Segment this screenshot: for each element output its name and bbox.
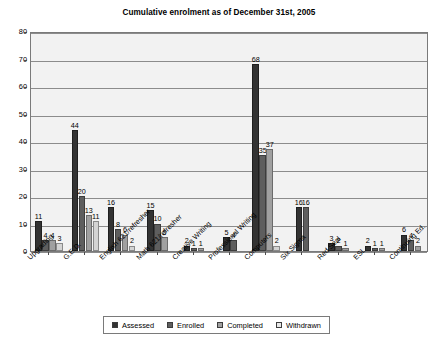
- bar-value-label: 1: [375, 240, 389, 247]
- legend-item: Completed: [217, 321, 263, 330]
- x-axis: UpgradingG.E.D.English 621/refresherMath…: [0, 252, 438, 312]
- bar: [372, 248, 378, 251]
- y-axis-tick: [24, 142, 27, 143]
- legend-item: Assessed: [112, 321, 154, 330]
- y-axis-tick: [24, 87, 27, 88]
- y-axis: 01020304050607080: [0, 32, 27, 252]
- x-axis-tick: [84, 252, 85, 255]
- legend-swatch-icon: [217, 322, 223, 328]
- bar: [342, 248, 348, 251]
- bar: [273, 246, 279, 252]
- x-axis-tick: [374, 252, 375, 255]
- bar: [93, 221, 99, 251]
- x-axis-tick: [301, 252, 302, 255]
- y-axis-tick: [24, 32, 27, 33]
- x-axis-tick: [229, 252, 230, 255]
- legend-swatch-icon: [276, 322, 282, 328]
- legend-item: Enrolled: [167, 321, 204, 330]
- bar-value-label: 37: [262, 141, 276, 148]
- bar-value-label: 16: [299, 199, 313, 206]
- bar-chart: Cumulative enrolment as of December 31st…: [0, 0, 438, 349]
- bar: [86, 215, 92, 251]
- bar-value-label: 11: [89, 213, 103, 220]
- legend-item: Withdrawn: [276, 321, 321, 330]
- bar: [415, 246, 421, 252]
- chart-legend: AssessedEnrolledCompletedWithdrawn: [103, 316, 330, 334]
- y-axis-tick: [24, 115, 27, 116]
- x-axis-tick: [410, 252, 411, 255]
- legend-swatch-icon: [167, 322, 173, 328]
- legend-swatch-icon: [112, 322, 118, 328]
- legend-label: Assessed: [122, 321, 154, 330]
- bar: [303, 207, 309, 251]
- bar-value-label: 16: [104, 199, 118, 206]
- bar-value-label: 68: [248, 56, 262, 63]
- bar-value-label: 44: [68, 122, 82, 129]
- bar: [129, 246, 135, 252]
- x-axis-tick: [193, 252, 194, 255]
- y-axis-tick: [24, 197, 27, 198]
- bars-layer: 1144344201311168621510521154683537216163…: [31, 33, 427, 251]
- y-axis-tick: [24, 60, 27, 61]
- y-axis-tick: [24, 225, 27, 226]
- bar: [252, 64, 258, 251]
- plot-area: 1144344201311168621510521154683537216163…: [30, 32, 428, 252]
- x-axis-tick: [48, 252, 49, 255]
- x-axis-tick: [338, 252, 339, 255]
- y-axis-tick: [24, 170, 27, 171]
- bar-value-label: 10: [150, 215, 164, 222]
- legend-label: Completed: [227, 321, 263, 330]
- bar: [56, 243, 62, 251]
- bar: [191, 248, 197, 251]
- bar: [379, 248, 385, 251]
- bar: [198, 248, 204, 251]
- bar-value-label: 20: [75, 188, 89, 195]
- x-axis-tick: [120, 252, 121, 255]
- legend-label: Enrolled: [177, 321, 204, 330]
- legend-label: Withdrawn: [286, 321, 321, 330]
- bar-value-label: 11: [31, 213, 45, 220]
- x-axis-tick: [265, 252, 266, 255]
- x-axis-tick: [157, 252, 158, 255]
- chart-title: Cumulative enrolment as of December 31st…: [0, 8, 438, 17]
